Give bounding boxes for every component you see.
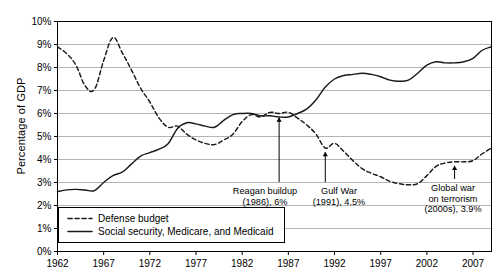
annotation-line: Global war bbox=[398, 183, 504, 194]
x-tick-marks bbox=[58, 252, 474, 256]
legend-label-social-security-medicare-medicaid: Social security, Medicare, and Medicaid bbox=[98, 226, 273, 238]
annotation-line: Gulf War bbox=[284, 186, 394, 197]
annotation-line: (1991), 4.5% bbox=[284, 197, 394, 208]
annotation-line: (2000s), 3.9% bbox=[398, 204, 504, 215]
annotation-global-war-on-terrorism: Global waron terrorism(2000s), 3.9% bbox=[398, 183, 504, 215]
annotation-line: on terrorism bbox=[398, 194, 504, 205]
y-tick-marks bbox=[54, 22, 58, 252]
legend-label-defense-budget: Defense budget bbox=[98, 213, 169, 225]
data-series bbox=[58, 37, 492, 191]
gdp-spending-line-chart: Percentage of GDP 0%1%2%3%4%5%6%7%8%9%10… bbox=[0, 0, 504, 279]
annotation-gulf-war: Gulf War(1991), 4.5% bbox=[284, 186, 394, 207]
series-line-social-security-medicare-medicaid bbox=[58, 47, 492, 192]
series-line-defense-budget bbox=[58, 37, 492, 184]
